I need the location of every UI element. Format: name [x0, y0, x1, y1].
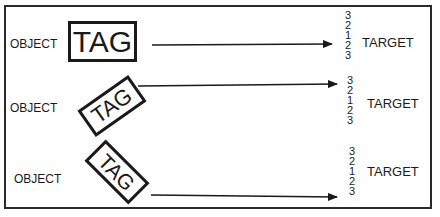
arrow-row-3 [151, 195, 337, 197]
arrows-layer [0, 0, 440, 217]
arrow-row-2 [138, 84, 337, 86]
arrow-row-1 [152, 44, 332, 45]
